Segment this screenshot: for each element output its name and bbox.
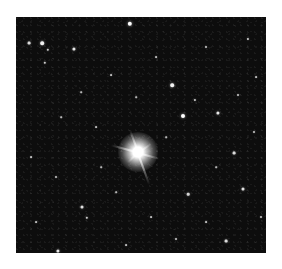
star (155, 56, 157, 58)
star (255, 76, 257, 78)
star (187, 193, 190, 196)
star (40, 41, 44, 45)
star (233, 152, 236, 155)
star (215, 166, 217, 168)
star (125, 244, 127, 246)
star (175, 238, 177, 240)
star (205, 46, 207, 48)
star (81, 206, 84, 209)
star (181, 114, 185, 118)
image-canvas (0, 0, 282, 269)
star (253, 131, 255, 133)
star (55, 176, 57, 178)
star (260, 216, 262, 218)
bright-star (108, 122, 168, 182)
star (35, 221, 37, 223)
star (60, 116, 62, 118)
star (100, 166, 102, 168)
star (170, 83, 174, 87)
star (165, 136, 167, 138)
star (135, 96, 137, 98)
star (110, 74, 112, 76)
star (115, 191, 117, 193)
star (30, 156, 32, 158)
star (95, 126, 97, 128)
star (237, 94, 239, 96)
star (150, 216, 152, 218)
star (28, 42, 31, 45)
star (80, 91, 82, 93)
star (225, 240, 228, 243)
star (205, 221, 207, 223)
star-field-photo (16, 17, 266, 253)
star (242, 188, 245, 191)
